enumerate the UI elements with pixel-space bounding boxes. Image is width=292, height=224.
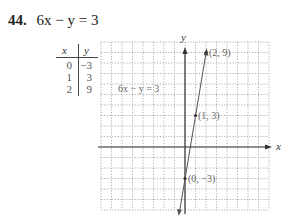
point-label-2-9: (2, 9) <box>209 47 231 59</box>
equation-line <box>180 53 207 212</box>
y-axis-arrow-icon <box>183 47 188 54</box>
point-label-0-neg3: (0, −3) <box>188 173 215 185</box>
point-label-1-3: (1, 3) <box>198 110 220 122</box>
line-arrow-bottom-icon <box>177 209 182 216</box>
line-equation-label: 6x − y = 3 <box>118 83 159 94</box>
coordinate-graph: x y (2, 9) (1, 3) (0, −3) 6x − y = 3 <box>0 0 292 224</box>
y-axis-label: y <box>180 31 186 43</box>
point-1-3 <box>194 114 197 117</box>
point-0-neg3 <box>183 177 186 180</box>
x-axis-arrow-icon <box>265 145 272 150</box>
x-axis-label: x <box>275 140 281 152</box>
point-2-9 <box>204 51 207 54</box>
